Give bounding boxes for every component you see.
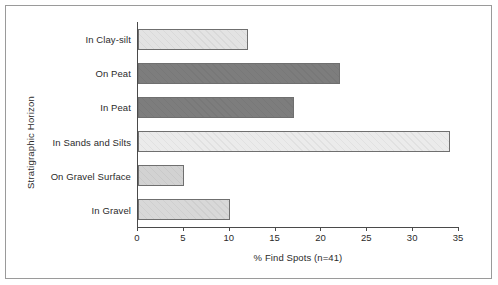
x-axis-title: % Find Spots (n=41) xyxy=(137,252,459,263)
category-label: On Peat xyxy=(95,68,131,79)
x-axis-line xyxy=(137,227,459,228)
x-tick-label: 15 xyxy=(269,232,280,243)
x-tick xyxy=(275,227,276,231)
bar-row: In Sands and Silts xyxy=(138,125,459,159)
category-label: In Peat xyxy=(100,102,131,113)
category-label: In Sands and Silts xyxy=(53,136,131,147)
bar-on-gravel-surface xyxy=(138,165,184,186)
bar-in-peat xyxy=(138,97,294,118)
x-tick-label: 35 xyxy=(453,232,464,243)
bar-on-peat xyxy=(138,63,340,84)
bar-row: In Peat xyxy=(138,90,459,124)
chart-figure: Stratigraphic Horizon In Clay-silt On Pe… xyxy=(0,0,498,285)
bar-row: On Gravel Surface xyxy=(138,159,459,193)
y-axis-title-text: Stratigraphic Horizon xyxy=(25,96,36,189)
x-tick-label: 30 xyxy=(407,232,418,243)
x-tick-label: 10 xyxy=(223,232,234,243)
x-tick xyxy=(137,227,138,231)
bar-in-sands-and-silts xyxy=(138,131,450,152)
bar-row: On Peat xyxy=(138,56,459,90)
x-tick xyxy=(412,227,413,231)
x-tick xyxy=(366,227,367,231)
bar-row: In Clay-silt xyxy=(138,22,459,56)
plot-area: In Clay-silt On Peat In Peat In Sands an… xyxy=(137,22,459,227)
x-tick-label: 25 xyxy=(361,232,372,243)
x-tick-label: 5 xyxy=(180,232,185,243)
x-tick xyxy=(458,227,459,231)
category-label: In Clay-silt xyxy=(85,34,131,45)
category-label: In Gravel xyxy=(92,204,131,215)
bar-row: In Gravel xyxy=(138,193,459,227)
x-tick xyxy=(320,227,321,231)
category-label: On Gravel Surface xyxy=(51,170,131,181)
bar-in-gravel xyxy=(138,199,230,220)
x-tick xyxy=(183,227,184,231)
x-tick-label: 20 xyxy=(315,232,326,243)
y-axis-title: Stratigraphic Horizon xyxy=(22,0,38,285)
x-tick xyxy=(229,227,230,231)
x-tick-label: 0 xyxy=(134,232,139,243)
bar-in-clay-silt xyxy=(138,29,248,50)
